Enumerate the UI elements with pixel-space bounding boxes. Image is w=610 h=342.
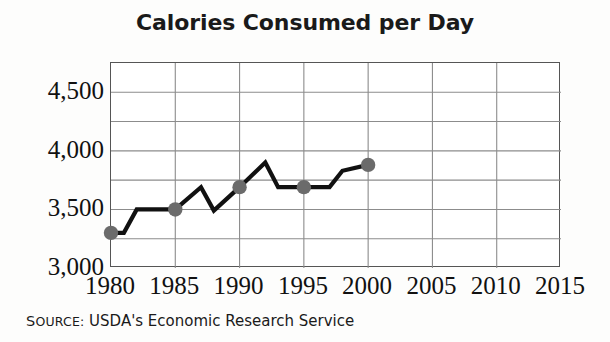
data-point-marker (168, 202, 182, 216)
y-axis-tick-labels: 3,0003,5004,0004,500 (0, 62, 104, 267)
data-point-marker (104, 226, 118, 240)
x-axis-tick-label: 2000 (342, 272, 392, 300)
source-label-smallcaps: OURCE: (35, 314, 84, 329)
source-label: SOURCE: (26, 314, 85, 329)
x-axis-tick-label: 2010 (471, 272, 521, 300)
plot-area (110, 62, 560, 267)
y-axis-tick-label: 4,000 (4, 136, 104, 164)
x-axis-tick-labels: 19801985199019952000200520102015 (0, 272, 610, 304)
data-point-marker (361, 158, 375, 172)
y-axis-tick-label: 4,500 (4, 77, 104, 105)
x-axis-tick-label: 1995 (278, 272, 328, 300)
x-axis-tick-label: 2015 (535, 272, 585, 300)
x-axis-tick-label: 1985 (149, 272, 199, 300)
x-axis-tick-label: 2005 (406, 272, 456, 300)
y-axis-tick-label: 3,500 (4, 194, 104, 222)
data-point-marker (297, 180, 311, 194)
source-label-capital: S (26, 313, 35, 329)
data-series-line (111, 63, 561, 268)
chart-title: Calories Consumed per Day (0, 10, 610, 35)
source-text: USDA's Economic Research Service (89, 312, 354, 330)
x-axis-tick-label: 1990 (214, 272, 264, 300)
source-note: SOURCE: USDA's Economic Research Service (26, 312, 354, 330)
chart-figure: Calories Consumed per Day 3,0003,5004,00… (0, 0, 610, 342)
data-point-marker (232, 180, 246, 194)
x-axis-tick-label: 1980 (85, 272, 135, 300)
